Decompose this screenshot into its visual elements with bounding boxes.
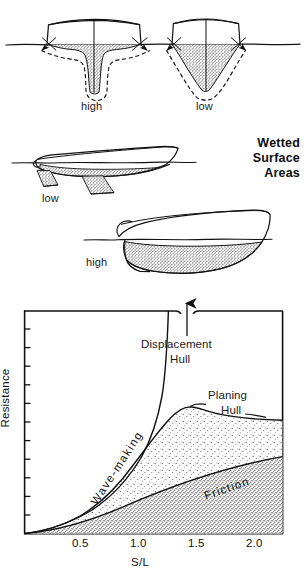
y-axis-title: Resistance xyxy=(0,369,11,428)
displacement-hull-annotation-line2: Hull xyxy=(170,353,190,365)
displacement-hull-annotation-line1: Displacement xyxy=(141,338,212,350)
x-axis-title: S/L xyxy=(131,556,149,568)
cross-section-label-low: low xyxy=(196,100,213,112)
wsa-line-1: Wetted xyxy=(253,136,300,151)
planing-hull-annotation-line2: Hull xyxy=(221,404,241,416)
x-tick-label-1.0: 1.0 xyxy=(130,537,147,549)
wsa-line-2: Surface xyxy=(253,151,300,166)
wsa-line-3: Areas xyxy=(253,166,300,181)
hull-cross-sections xyxy=(6,19,300,101)
profile-label-low: low xyxy=(42,192,59,204)
deep-keel-section xyxy=(42,19,151,100)
displacement-wetted-area xyxy=(125,242,262,274)
wetted-surface-areas-heading: Wetted Surface Areas xyxy=(253,136,300,181)
y-axis-ticks xyxy=(25,329,31,515)
chart-top-border-right xyxy=(193,311,283,314)
x-tick-label-0.5: 0.5 xyxy=(72,537,89,549)
x-tick-label-2.0: 2.0 xyxy=(246,537,263,549)
planing-hull-profile xyxy=(12,146,196,194)
chart-top-border-left xyxy=(24,311,181,314)
hull-profiles xyxy=(12,146,272,273)
profile-label-high: high xyxy=(86,256,107,268)
planing-hull-leader-right xyxy=(245,414,266,417)
planing-fin-aft xyxy=(82,176,114,194)
displacement-profile-waterline xyxy=(84,239,272,240)
displacement-sheer-line xyxy=(121,211,270,225)
displacement-hull-profile xyxy=(84,210,272,273)
planing-sheer-line xyxy=(37,147,178,159)
planing-hull-annotation-line1: Planing xyxy=(208,389,247,401)
wetted-surface-figure: Wave-making Friction xyxy=(0,0,308,578)
cross-section-label-high: high xyxy=(81,100,102,112)
shallow-vee-section xyxy=(167,19,247,100)
x-tick-label-1.5: 1.5 xyxy=(188,537,205,549)
